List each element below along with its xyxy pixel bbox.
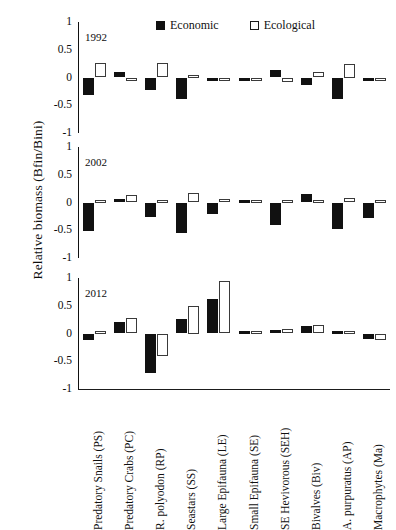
y-tick-labels: 10.50-0.5-1: [26, 22, 72, 133]
plot-area: [79, 22, 390, 133]
y-tick-label: 0.5: [26, 300, 72, 312]
bar-ecological: [157, 200, 168, 203]
bar-ecological: [126, 318, 137, 334]
bar-economic: [176, 78, 187, 99]
bar-economic: [145, 78, 156, 90]
bar-economic: [145, 203, 156, 218]
bar-group: [172, 147, 203, 258]
bar-group: [235, 278, 266, 389]
bar-group: [110, 278, 141, 389]
bar-group: [79, 147, 110, 258]
bar-economic: [83, 334, 94, 341]
bar-ecological: [313, 325, 324, 333]
y-tick-label: -0.5: [26, 100, 72, 112]
bar-economic: [301, 326, 312, 333]
bar-ecological: [126, 78, 137, 82]
bar-ecological: [95, 200, 106, 203]
bar-economic: [176, 319, 187, 334]
y-tick-label: 0: [26, 197, 72, 209]
bar-group: [110, 147, 141, 258]
bar-ecological: [282, 78, 293, 82]
bar-group: [203, 147, 234, 258]
y-tick-label: 1: [26, 272, 72, 284]
bar-group: [141, 147, 172, 258]
bar-ecological: [344, 64, 355, 78]
bar-ecological: [95, 331, 106, 334]
plot-area: [79, 147, 390, 258]
bar-economic: [207, 203, 218, 214]
bar-group: [235, 147, 266, 258]
bar-ecological: [188, 193, 199, 203]
bar-ecological: [188, 75, 199, 78]
bar-economic: [83, 78, 94, 96]
bar-group: [297, 22, 328, 133]
bar-economic: [270, 70, 281, 77]
y-tick-label: 1: [26, 16, 72, 28]
bar-ecological: [313, 72, 324, 78]
x-axis-label: Seastars (SS): [185, 406, 197, 530]
bar-economic: [332, 78, 343, 99]
bar-ecological: [375, 334, 386, 341]
plot-area: [79, 278, 390, 389]
bar-economic: [363, 78, 374, 81]
panel-1992: 199210.50-0.5-1: [78, 22, 390, 133]
bar-group: [110, 22, 141, 133]
bar-group: [79, 278, 110, 389]
bar-ecological: [282, 200, 293, 203]
bar-group: [328, 278, 359, 389]
y-tick-label: 0: [26, 72, 72, 84]
bar-economic: [332, 331, 343, 334]
panel-2012: 201210.50-0.5-1: [78, 278, 390, 389]
bar-economic: [239, 78, 250, 81]
bar-ecological: [219, 78, 230, 81]
bar-economic: [114, 199, 125, 202]
bar-economic: [363, 203, 374, 219]
bar-group: [79, 22, 110, 133]
bar-ecological: [282, 329, 293, 333]
bar-group: [266, 278, 297, 389]
x-axis-line: [78, 389, 390, 390]
bar-group: [297, 147, 328, 258]
bar-ecological: [344, 198, 355, 203]
bar-economic: [239, 331, 250, 334]
bar-group: [266, 147, 297, 258]
bar-group: [359, 147, 390, 258]
y-tick-label: 0: [26, 328, 72, 340]
bar-ecological: [188, 306, 199, 334]
bar-group: [297, 278, 328, 389]
bar-ecological: [251, 78, 262, 81]
bar-ecological: [251, 331, 262, 334]
bar-ecological: [126, 195, 137, 202]
bar-ecological: [313, 200, 324, 203]
bar-economic: [270, 330, 281, 333]
bar-group: [172, 22, 203, 133]
x-axis-label: Small Epifauna (SE): [248, 406, 260, 530]
x-axis-label: Predatory Snails (PS): [92, 406, 104, 530]
panel-2002: 200210.50-0.5-1: [78, 147, 390, 258]
bar-economic: [363, 334, 374, 340]
y-tick-label: -1: [26, 127, 72, 139]
bar-economic: [301, 194, 312, 202]
bar-ecological: [375, 78, 386, 81]
bar-ecological: [251, 200, 262, 203]
y-tick-label: -1: [26, 252, 72, 264]
relative-biomass-figure: Relative biomass (Bfin/Bini) Economic Ec…: [0, 0, 396, 530]
x-axis-label: R. polyodon (RP): [154, 406, 166, 530]
x-axis-label: Bivalves (Biv): [310, 406, 322, 530]
bar-economic: [83, 203, 94, 232]
bar-group: [235, 22, 266, 133]
x-axis-label: Large Epifauna (LE): [216, 406, 228, 530]
x-axis-label: Predatory Crabs (PC): [123, 406, 135, 530]
y-tick-labels: 10.50-0.5-1: [26, 278, 72, 389]
bar-economic: [207, 78, 218, 81]
y-tick-label: 0.5: [26, 169, 72, 181]
bar-ecological: [219, 281, 230, 334]
bar-economic: [239, 200, 250, 203]
bar-economic: [176, 203, 187, 234]
bar-group: [266, 22, 297, 133]
bar-economic: [114, 322, 125, 333]
bar-ecological: [95, 63, 106, 78]
bar-ecological: [157, 63, 168, 78]
bar-group: [172, 278, 203, 389]
bar-group: [328, 22, 359, 133]
